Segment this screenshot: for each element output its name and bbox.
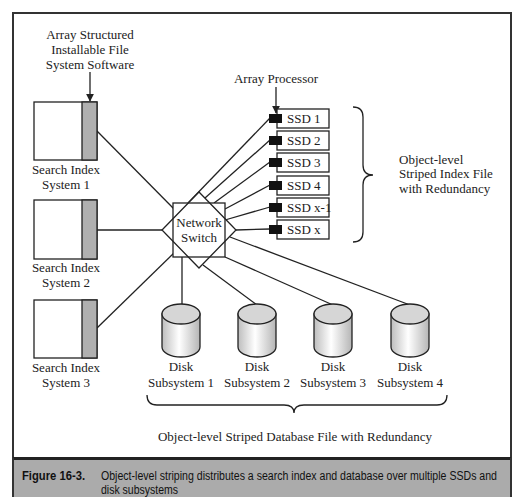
ssd-1: SSD 1: [269, 109, 329, 128]
ssd-x-1: SSD x-1: [269, 198, 331, 217]
network-switch-label-1: Network: [176, 215, 222, 230]
software-label-line-1: Array Structured: [46, 27, 134, 42]
disk-subsystem-number: Subsystem 3: [300, 375, 366, 390]
figure-caption: Figure 16-3. Object-level striping distr…: [13, 458, 511, 497]
disk-top-icon: [162, 304, 200, 324]
software-label: Array Structured Installable File System…: [46, 27, 135, 72]
figure-16-3: Array Structured Installable File System…: [0, 0, 521, 497]
caption-text-line-1: Object-level striping distributes a sear…: [101, 469, 497, 483]
search-index-system-number: System 3: [42, 375, 90, 390]
index-file-label-line-3: with Redundancy: [399, 181, 491, 196]
software-strip: [82, 300, 97, 358]
connector-icon: [269, 181, 282, 190]
ssd-4: SSD 4: [269, 176, 329, 195]
software-strip: [82, 200, 97, 259]
disk-top-icon: [391, 304, 429, 324]
software-label-line-3: System Software: [46, 57, 135, 72]
ssd-2: SSD 2: [269, 131, 329, 150]
ssd-label: SSD 2: [287, 133, 321, 148]
connector-icon: [269, 225, 282, 234]
disk-top-icon: [238, 304, 276, 324]
ssd-label: SSD 3: [287, 155, 321, 170]
software-strip: [82, 102, 97, 160]
connector-icon: [269, 203, 282, 212]
disk-label: Disk: [398, 359, 423, 374]
ssd-label: SSD 4: [287, 178, 321, 193]
ssd-label: SSD x-1: [287, 200, 331, 215]
ssd-3: SSD 3: [269, 153, 329, 172]
disk-label: Disk: [321, 359, 346, 374]
array-processor-label: Array Processor: [234, 71, 319, 86]
network-switch-label-2: Switch: [181, 230, 218, 245]
disk-subsystem-number: Subsystem 1: [148, 375, 214, 390]
search-index-label: Search Index: [32, 162, 101, 177]
disk-subsystem-number: Subsystem 2: [224, 375, 290, 390]
ssd-label: SSD 1: [287, 111, 321, 126]
search-index-system-number: System 1: [42, 177, 90, 192]
search-index-label: Search Index: [32, 260, 101, 275]
index-file-label-line-1: Object-level: [399, 152, 464, 167]
disk-top-icon: [314, 304, 352, 324]
connector-icon: [269, 136, 282, 145]
database-file-label: Object-level Striped Database File with …: [158, 429, 433, 444]
disk-label: Disk: [245, 359, 270, 374]
ssd-x: SSD x: [269, 220, 329, 239]
index-file-label-line-2: Striped Index File: [399, 166, 493, 181]
disk-subsystem-number: Subsystem 4: [377, 375, 444, 390]
software-label-line-2: Installable File: [51, 42, 129, 57]
disk-label: Disk: [169, 359, 194, 374]
connector-icon: [269, 158, 282, 167]
caption-text-line-2: disk subsystems: [101, 483, 178, 497]
connector-icon: [269, 114, 282, 123]
figure-number: Figure 16-3.: [22, 468, 85, 483]
search-index-label: Search Index: [32, 360, 101, 375]
search-index-system-number: System 2: [42, 275, 90, 290]
ssd-label: SSD x: [287, 222, 321, 237]
network-switch: Network Switch: [162, 192, 236, 268]
